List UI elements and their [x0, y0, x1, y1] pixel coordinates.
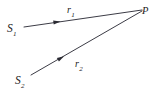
vector-r2-label: r2 [75, 54, 83, 73]
ray-line-r1 [24, 10, 142, 27]
ray-group-r2 [31, 11, 142, 75]
source-1-subscript: 1 [13, 30, 17, 38]
vector-r2-subscript: 2 [79, 65, 83, 73]
vector-r1-label: r1 [67, 0, 75, 19]
physics-vector-diagram: S1 S2 r1 r2 P [0, 0, 158, 96]
ray-arrowhead-r2 [57, 56, 64, 61]
source-2-subscript: 2 [21, 82, 25, 90]
vector-r1-subscript: 1 [71, 11, 75, 19]
point-p-symbol: P [142, 5, 148, 16]
source-2-label: S2 [15, 71, 25, 90]
point-p-label: P [142, 1, 148, 17]
source-2-symbol: S [15, 74, 21, 86]
ray-group-r1 [24, 10, 142, 27]
source-1-symbol: S [7, 22, 13, 34]
source-1-label: S1 [7, 19, 17, 38]
ray-arrowhead-r1 [53, 20, 60, 24]
ray-line-r2 [31, 11, 142, 75]
